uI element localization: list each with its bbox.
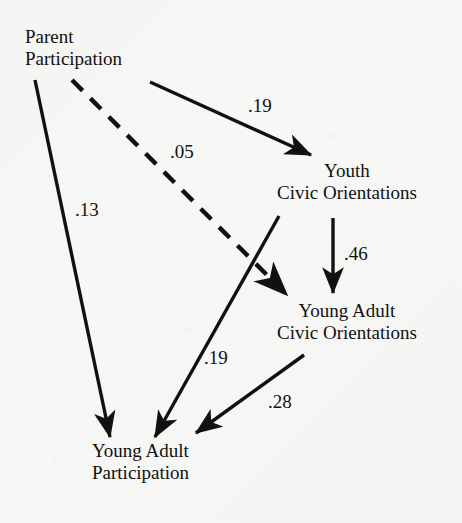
- node-young-adult-civic-orientations-line2: Civic Orientations: [277, 322, 417, 344]
- edge-label-young-adult-civic-to-young-adult-participation: .28: [268, 392, 292, 411]
- node-parent-participation-line2: Participation: [25, 48, 122, 70]
- node-young-adult-participation-line2: Participation: [92, 462, 189, 484]
- node-young-adult-civic-orientations-line1: Young Adult: [299, 300, 396, 321]
- node-parent-participation: Parent Participation: [25, 26, 122, 69]
- edge-label-parent-to-youth-civic: .19: [248, 96, 272, 115]
- edge-label-youth-civic-to-young-adult-participation: .19: [204, 348, 228, 367]
- node-parent-participation-line1: Parent: [25, 26, 74, 47]
- node-young-adult-participation-line1: Young Adult: [92, 440, 189, 461]
- edge-youth-civic-to-young-adult-participation: [155, 216, 279, 437]
- edge-label-youth-civic-to-young-adult-civic: .46: [344, 244, 368, 263]
- edge-label-parent-to-young-adult-participation: .13: [75, 200, 99, 219]
- edge-parent-to-young-adult-participation: [35, 80, 110, 437]
- node-young-adult-participation: Young Adult Participation: [92, 440, 189, 483]
- node-youth-civic-orientations: Youth Civic Orientations: [277, 160, 417, 203]
- path-diagram: Parent Participation Youth Civic Orienta…: [0, 0, 462, 523]
- edges-layer: [0, 0, 462, 523]
- node-youth-civic-orientations-line1: Youth: [324, 160, 370, 181]
- node-youth-civic-orientations-line2: Civic Orientations: [277, 182, 417, 204]
- node-young-adult-civic-orientations: Young Adult Civic Orientations: [277, 300, 417, 343]
- edge-label-parent-to-young-adult-civic: .05: [170, 142, 194, 161]
